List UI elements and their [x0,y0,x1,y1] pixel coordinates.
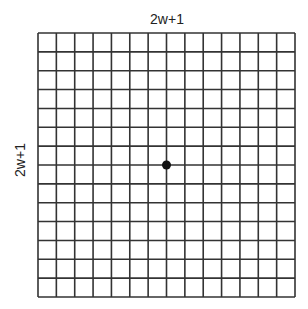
center-pixel-dot [162,161,171,170]
window-grid [0,0,308,309]
